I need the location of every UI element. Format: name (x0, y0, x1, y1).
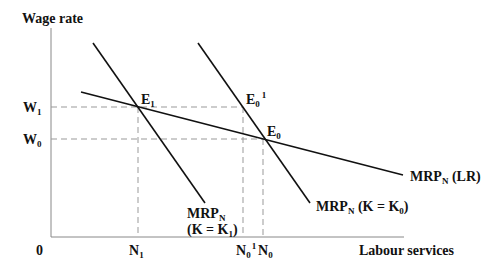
origin-label: 0 (36, 243, 43, 258)
n1-label: N1 (129, 243, 144, 260)
e0-label: E0 (267, 124, 281, 141)
mrp-k1-label-line1: MRPN (187, 206, 226, 223)
labour-demand-diagram: Wage rate W1 W0 0 N1 N01 N0 Labour servi… (0, 0, 498, 273)
n0-label: N0 (258, 243, 273, 260)
mrp-k1-label-line2: (K = K1) (187, 222, 238, 239)
n0-prime-label: N01 (236, 241, 257, 260)
w0-label: W0 (23, 132, 42, 149)
mrp-k0-label: MRPN (K = K0) (316, 199, 409, 216)
w1-label: W1 (23, 100, 42, 117)
mrp-curve-k1 (93, 43, 205, 203)
e1-label: E1 (141, 92, 155, 109)
x-axis-label: Labour services (359, 243, 455, 258)
e0-prime-label: E01 (246, 90, 267, 109)
mrp-lr-label: MRPN (LR) (410, 169, 481, 186)
mrp-curve-long-run (81, 92, 403, 175)
mrp-curve-k0 (198, 43, 310, 203)
y-axis-label: Wage rate (22, 11, 83, 26)
